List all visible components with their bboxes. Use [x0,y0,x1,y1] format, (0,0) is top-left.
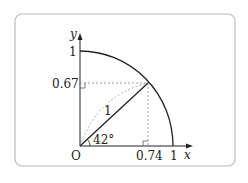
y-axis-label: y [69,27,77,41]
y-tick-label-1: 1 [69,45,77,59]
radius-label: 1 [104,104,112,118]
x-tick-label-1: 1 [170,149,178,163]
diagram-canvas: y x O 1 0.67 0.74 1 1 42° [0,0,248,183]
angle-label: 42° [93,133,114,147]
origin-label: O [71,149,81,163]
y-tick-label-0.67: 0.67 [52,77,79,91]
x-tick-label-0.74: 0.74 [136,149,163,163]
x-axis-label: x [184,148,191,162]
frame [15,14,235,166]
